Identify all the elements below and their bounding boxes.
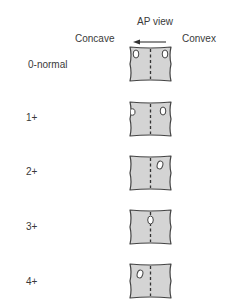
pedicle-convex (162, 50, 168, 58)
convex-label: Convex (182, 33, 216, 45)
vertebra-grade-3 (126, 208, 175, 246)
pedicle-convex (148, 216, 154, 224)
vertebra-grade-0 (126, 45, 175, 83)
grade-label-2: 2+ (26, 166, 37, 178)
pedicle-concave (133, 50, 139, 58)
grade-label-4: 4+ (26, 276, 37, 288)
pedicle-convex (160, 107, 166, 115)
vertebra-grade-2 (126, 154, 175, 192)
grade-label-1: 1+ (26, 112, 37, 124)
grade-label-3: 3+ (26, 221, 37, 233)
concave-label: Concave (75, 33, 114, 45)
grade-label-0: 0-normal (28, 59, 67, 71)
pedicle-concave (131, 109, 135, 115)
ap-view-label: AP view (137, 16, 173, 28)
vertebra-grade-4 (126, 262, 175, 300)
vertebra-grade-1 (126, 100, 175, 138)
